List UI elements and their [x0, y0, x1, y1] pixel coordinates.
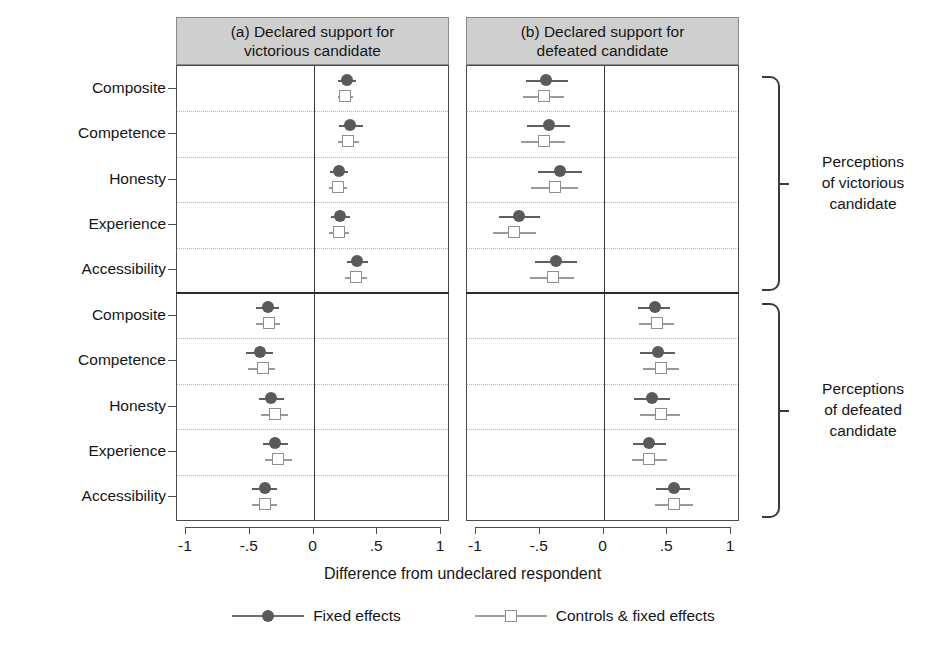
gridline	[177, 157, 448, 158]
point-estimate-square	[655, 362, 667, 374]
point-estimate-circle	[351, 255, 363, 267]
y-axis-category-label: Accessibility	[82, 260, 166, 278]
y-axis-category-label: Honesty	[109, 397, 166, 415]
panel-a-title-line1: (a) Declared support for	[231, 22, 395, 41]
x-axis-tick	[666, 527, 667, 534]
brace-victorious-line3: candidate	[793, 193, 933, 214]
panel-b-title-line1: (b) Declared support for	[521, 22, 685, 41]
block-divider-a	[176, 292, 449, 294]
y-axis-tick	[168, 360, 176, 361]
point-estimate-circle	[543, 119, 555, 131]
brace-label-defeated: Perceptions of defeated candidate	[793, 378, 933, 441]
point-estimate-square	[333, 226, 345, 238]
panel-b-title-line2: defeated candidate	[521, 41, 685, 60]
gridline	[177, 111, 448, 112]
point-estimate-square	[339, 90, 351, 102]
x-axis-tick	[603, 527, 604, 534]
y-axis-category-label: Competence	[78, 351, 166, 369]
point-estimate-circle	[269, 437, 281, 449]
figure-root: (a) Declared support for victorious cand…	[0, 0, 947, 660]
y-axis-tick	[168, 406, 176, 407]
y-axis-tick	[168, 179, 176, 180]
point-estimate-circle	[254, 346, 266, 358]
x-axis-tick	[440, 527, 441, 534]
legend-label-fixed-effects: Fixed effects	[313, 607, 401, 625]
point-estimate-circle	[333, 165, 345, 177]
gridline	[467, 157, 738, 158]
gridline	[177, 248, 448, 249]
x-axis-tick-label: -1	[178, 537, 192, 555]
x-axis-tick	[539, 527, 540, 534]
x-axis-tick	[475, 527, 476, 534]
brace-defeated	[762, 303, 780, 518]
gridline	[467, 475, 738, 476]
point-estimate-square	[332, 181, 344, 193]
y-axis-category-label: Experience	[88, 442, 166, 460]
legend: Fixed effects Controls & fixed effects	[0, 607, 947, 625]
filled-circle-marker-icon	[232, 609, 304, 623]
x-axis-tick-label: -.5	[530, 537, 548, 555]
gridline	[467, 384, 738, 385]
point-estimate-square	[651, 317, 663, 329]
y-axis-tick	[168, 269, 176, 270]
x-axis-tick	[376, 527, 377, 534]
point-estimate-square	[272, 453, 284, 465]
brace-defeated-line2: of defeated	[793, 399, 933, 420]
point-estimate-square	[547, 271, 559, 283]
x-axis-title: Difference from undeclared respondent	[0, 565, 936, 583]
point-estimate-circle	[265, 392, 277, 404]
brace-defeated-line3: candidate	[793, 420, 933, 441]
gridline	[467, 248, 738, 249]
x-axis-tick-label: .5	[660, 537, 673, 555]
y-axis-tick	[168, 496, 176, 497]
point-estimate-circle	[646, 392, 658, 404]
x-axis-tick	[249, 527, 250, 534]
x-axis-tick-label: 1	[436, 537, 445, 555]
point-estimate-square	[342, 135, 354, 147]
legend-item-controls-fixed-effects: Controls & fixed effects	[475, 607, 715, 625]
point-estimate-circle	[649, 301, 661, 313]
brace-victorious-nub	[779, 183, 789, 185]
panel-a-title-line2: victorious candidate	[231, 41, 395, 60]
point-estimate-circle	[344, 119, 356, 131]
panel-header-b: (b) Declared support for defeated candid…	[466, 17, 739, 65]
gridline	[177, 338, 448, 339]
y-axis-tick	[168, 133, 176, 134]
brace-defeated-line1: Perceptions	[793, 378, 933, 399]
gridline	[467, 202, 738, 203]
point-estimate-square	[655, 408, 667, 420]
point-estimate-circle	[554, 165, 566, 177]
block-divider-b	[466, 292, 739, 294]
gridline	[467, 338, 738, 339]
point-estimate-square	[269, 408, 281, 420]
legend-item-fixed-effects: Fixed effects	[232, 607, 401, 625]
y-axis-category-label: Composite	[92, 79, 166, 97]
open-square-marker-icon	[475, 609, 547, 623]
brace-victorious-line1: Perceptions	[793, 151, 933, 172]
y-axis-category-label: Honesty	[109, 170, 166, 188]
y-axis-category-label: Accessibility	[82, 487, 166, 505]
x-axis-tick	[730, 527, 731, 534]
x-axis-tick-label: 0	[308, 537, 317, 555]
point-estimate-circle	[540, 74, 552, 86]
gridline	[177, 202, 448, 203]
point-estimate-square	[508, 226, 520, 238]
brace-defeated-nub	[779, 410, 789, 412]
y-axis-tick	[168, 451, 176, 452]
x-axis-tick-label: 0	[598, 537, 607, 555]
legend-label-controls-fixed-effects: Controls & fixed effects	[556, 607, 715, 625]
brace-victorious	[762, 76, 780, 291]
gridline	[177, 384, 448, 385]
point-estimate-circle	[513, 210, 525, 222]
x-axis-tick	[313, 527, 314, 534]
gridline	[467, 429, 738, 430]
gridline	[467, 111, 738, 112]
point-estimate-square	[350, 271, 362, 283]
y-axis-tick	[168, 224, 176, 225]
point-estimate-square	[538, 135, 550, 147]
point-estimate-circle	[668, 482, 680, 494]
point-estimate-square	[257, 362, 269, 374]
x-axis-tick	[185, 527, 186, 534]
point-estimate-square	[668, 498, 680, 510]
x-axis-tick-label: .5	[370, 537, 383, 555]
